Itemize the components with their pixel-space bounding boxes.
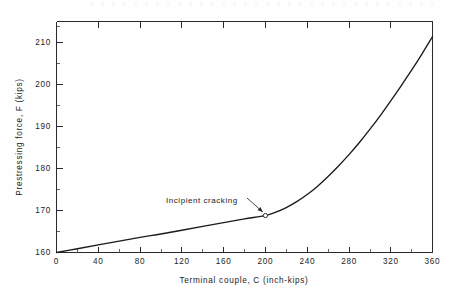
y-axis-title: Prestressing force, F (kips) <box>15 78 24 195</box>
x-tick-label: 360 <box>425 257 441 266</box>
data-series-line <box>57 37 433 253</box>
x-tick-label: 240 <box>299 257 315 266</box>
x-tick-labels: 0 40 80 120 160 200 240 280 320 360 <box>54 257 441 266</box>
x-tick-label: 120 <box>174 257 190 266</box>
x-tick-label: 80 <box>135 257 146 266</box>
x-tick-label: 320 <box>383 257 399 266</box>
x-tick-label: 0 <box>54 257 59 266</box>
incipient-cracking-marker <box>263 213 267 217</box>
y-axis-ticks <box>57 26 63 252</box>
x-axis-ticks <box>57 22 433 253</box>
incipient-cracking-annotation: Incipient cracking <box>166 196 267 218</box>
y-tick-labels: 160 170 180 190 200 210 <box>35 38 51 257</box>
plot-frame <box>57 22 433 253</box>
x-tick-label: 40 <box>93 257 104 266</box>
annotation-label: Incipient cracking <box>166 196 238 205</box>
x-tick-label: 280 <box>341 257 357 266</box>
y-tick-label: 160 <box>35 248 51 257</box>
y-tick-label: 170 <box>35 206 51 215</box>
x-tick-label: 200 <box>258 257 274 266</box>
figure-container: 0 40 80 120 160 200 240 280 320 360 Term… <box>0 0 452 298</box>
y-tick-label: 200 <box>35 80 51 89</box>
line-chart: 0 40 80 120 160 200 240 280 320 360 Term… <box>0 0 452 298</box>
y-tick-label: 190 <box>35 122 51 131</box>
y-tick-label: 180 <box>35 164 51 173</box>
y-tick-label: 210 <box>35 38 51 47</box>
x-axis-title: Terminal couple, C (inch-kips) <box>180 276 309 285</box>
x-tick-label: 160 <box>216 257 232 266</box>
